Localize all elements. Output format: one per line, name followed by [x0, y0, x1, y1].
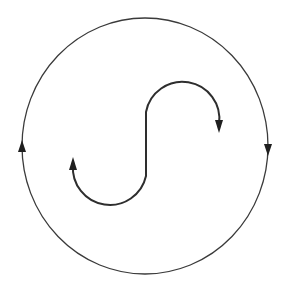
s-curve-upper-arrow-icon [215, 120, 223, 133]
left-up-arrow-icon [18, 140, 26, 152]
s-curve-lower-arrow-icon [69, 157, 77, 170]
s-curve [73, 82, 219, 205]
right-down-arrow-icon [264, 144, 272, 156]
diagram-canvas [0, 0, 292, 286]
